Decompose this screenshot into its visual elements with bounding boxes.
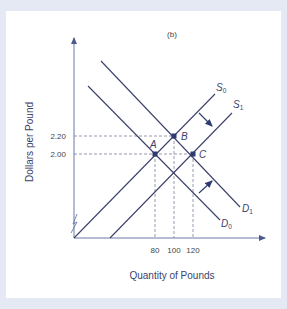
- x-axis-title: Quantity of Pounds: [129, 270, 214, 281]
- supply-shift-arrow-icon: [199, 113, 212, 126]
- y-axis-title: Dollars per Pound: [24, 102, 35, 182]
- y-tick-2-20: 2.20: [50, 132, 66, 141]
- supply-curve-s0: [74, 94, 215, 238]
- supply-demand-chart: (b) A B C S0 S1 D1 D0 2.20 2.00 80 10: [0, 0, 287, 309]
- s1-label: S1: [233, 99, 244, 111]
- point-c-marker: [191, 152, 196, 157]
- guide-lines: [74, 136, 193, 238]
- chart-title: (b): [167, 30, 177, 39]
- point-a-marker: [153, 152, 158, 157]
- supply-curve-s1: [110, 113, 232, 238]
- x-tick-80: 80: [151, 246, 160, 255]
- point-a-label: A: [149, 139, 157, 150]
- point-c-label: C: [199, 149, 207, 160]
- d1-label: D1: [242, 203, 253, 215]
- y-tick-2-00: 2.00: [50, 150, 66, 159]
- point-b-label: B: [181, 131, 188, 142]
- point-b-marker: [172, 134, 177, 139]
- x-tick-100: 100: [167, 246, 181, 255]
- demand-shift-arrow-icon: [199, 181, 212, 193]
- s0-label: S0: [216, 82, 227, 94]
- x-tick-120: 120: [186, 246, 200, 255]
- d0-label: D0: [221, 218, 232, 230]
